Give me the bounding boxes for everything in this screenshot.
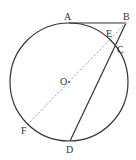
geometry-figure: A B E C O F D [0, 0, 136, 160]
label-b: B [123, 11, 130, 22]
secant-bd [70, 23, 126, 141]
diagram-canvas: A B E C O F D [0, 0, 136, 160]
label-c: C [117, 44, 124, 55]
label-e: E [106, 28, 112, 39]
label-f: F [21, 125, 27, 136]
label-a: A [64, 11, 72, 22]
center-point-o [68, 81, 70, 83]
label-d: D [66, 144, 73, 155]
label-o: O [60, 76, 67, 87]
